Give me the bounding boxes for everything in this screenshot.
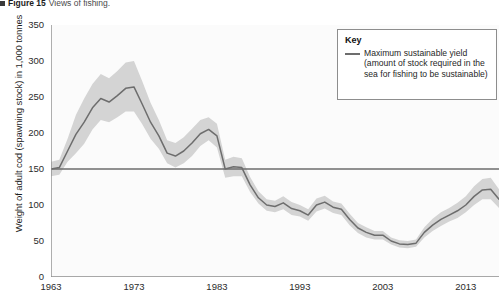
y-axis-ticks: 050100150200250300350 bbox=[14, 0, 44, 307]
x-tick-label: 1963 bbox=[29, 281, 73, 292]
figure-caption: Figure 15Views of fishing. bbox=[0, 0, 503, 9]
figure-container: Figure 15Views of fishing. Weight of adu… bbox=[0, 0, 503, 307]
legend-box: Key Maximum sustainable yield (amount of… bbox=[337, 29, 497, 100]
y-tick-label: 350 bbox=[16, 20, 44, 30]
x-tick-label: 1983 bbox=[195, 281, 239, 292]
y-tick-label: 100 bbox=[16, 200, 44, 210]
legend-line-swatch bbox=[345, 53, 360, 55]
y-tick-label: 300 bbox=[16, 56, 44, 66]
x-tick-label: 2003 bbox=[361, 281, 405, 292]
x-tick-label: 1993 bbox=[278, 281, 322, 292]
legend-title: Key bbox=[345, 35, 490, 46]
legend-item: Maximum sustainable yield (amount of sto… bbox=[345, 48, 490, 79]
y-tick-label: 150 bbox=[16, 164, 44, 174]
x-tick-label: 2013 bbox=[444, 281, 488, 292]
caption-bullet-icon bbox=[0, 1, 5, 6]
x-tick-label: 1973 bbox=[112, 281, 156, 292]
y-tick-label: 250 bbox=[16, 92, 44, 102]
legend-item-label: Maximum sustainable yield (amount of sto… bbox=[364, 48, 490, 79]
y-tick-label: 50 bbox=[16, 236, 44, 246]
y-tick-label: 200 bbox=[16, 128, 44, 138]
caption-text: Views of fishing. bbox=[49, 0, 110, 8]
